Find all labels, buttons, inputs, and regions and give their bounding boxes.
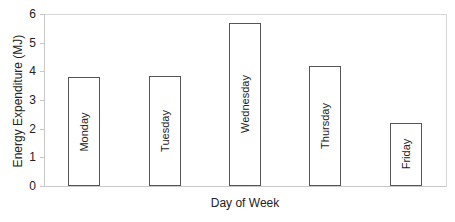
bar-wednesday: Wednesday <box>229 23 261 186</box>
y-tick-mark <box>40 43 44 44</box>
x-axis-title: Day of Week <box>44 196 446 210</box>
y-tick-label: 6 <box>24 8 36 20</box>
y-tick-mark <box>40 186 44 187</box>
y-tick-mark <box>40 71 44 72</box>
bar-friday: Friday <box>390 123 422 186</box>
y-tick-label: 4 <box>24 65 36 77</box>
y-tick-mark <box>40 100 44 101</box>
x-axis-line <box>44 186 446 187</box>
y-tick-mark <box>40 14 44 15</box>
y-tick-label: 1 <box>24 151 36 163</box>
bar-label: Friday <box>400 139 412 170</box>
y-axis-line <box>44 14 45 186</box>
y-tick-mark <box>40 129 44 130</box>
y-axis-title: Energy Expenditure (MJ) <box>11 31 25 171</box>
y-tick-label: 3 <box>24 94 36 106</box>
bar-thursday: Thursday <box>309 66 341 186</box>
y-tick-label: 0 <box>24 180 36 192</box>
y-tick-label: 2 <box>24 123 36 135</box>
bar-label: Thursday <box>319 103 331 149</box>
bar-monday: Monday <box>68 77 100 186</box>
bar-label: Wednesday <box>239 75 251 133</box>
y-tick-label: 5 <box>24 37 36 49</box>
bar-tuesday: Tuesday <box>149 76 181 186</box>
bar-label: Tuesday <box>159 110 171 152</box>
bar-label: Monday <box>78 112 90 151</box>
y-tick-mark <box>40 157 44 158</box>
